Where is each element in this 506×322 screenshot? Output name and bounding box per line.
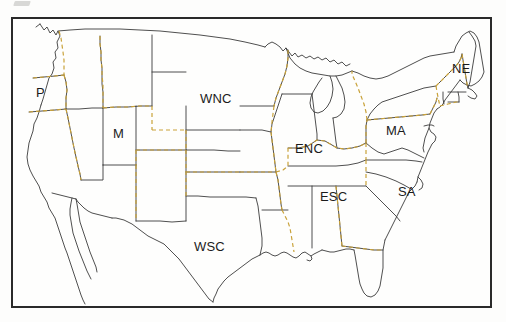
region-label-WSC: WSC bbox=[194, 240, 225, 253]
state-outlines bbox=[27, 24, 484, 304]
region-label-NE: NE bbox=[452, 62, 470, 75]
division-boundaries bbox=[29, 31, 468, 252]
region-label-SA: SA bbox=[398, 185, 416, 198]
region-label-WNC: WNC bbox=[200, 92, 232, 105]
map-geometry bbox=[0, 0, 506, 322]
us-census-divisions-map: P M WNC WSC ENC ESC SA MA NE bbox=[0, 0, 506, 322]
region-label-ESC: ESC bbox=[320, 190, 347, 203]
region-label-M: M bbox=[113, 127, 124, 140]
region-label-ENC: ENC bbox=[295, 142, 323, 155]
region-label-P: P bbox=[36, 86, 45, 99]
region-label-MA: MA bbox=[386, 124, 406, 137]
